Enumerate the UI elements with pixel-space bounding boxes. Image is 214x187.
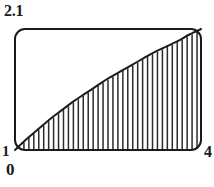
plot-area — [0, 0, 214, 187]
x-axis-max-label: 4 — [204, 144, 212, 160]
x-axis-min-label: 0 — [6, 161, 15, 178]
figure-container: 2.1 1 0 4 — [0, 0, 214, 187]
y-axis-max-label: 2.1 — [4, 3, 23, 19]
hatch-fill — [19, 32, 197, 152]
y-axis-min-label: 1 — [2, 144, 10, 159]
